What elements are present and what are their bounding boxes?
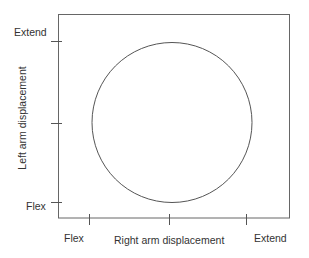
x-axis-label: Right arm displacement	[114, 235, 224, 246]
y-tick-label-extend: Extend	[14, 27, 47, 38]
y-axis-label: Left arm displacement	[17, 66, 28, 169]
x-tick-label-extend: Extend	[254, 233, 287, 244]
plot-frame	[59, 15, 290, 219]
x-tick-label-flex: Flex	[64, 233, 84, 244]
y-tick-label-flex: Flex	[26, 201, 46, 212]
phase-circle	[92, 43, 252, 203]
diagram-canvas	[0, 0, 309, 258]
